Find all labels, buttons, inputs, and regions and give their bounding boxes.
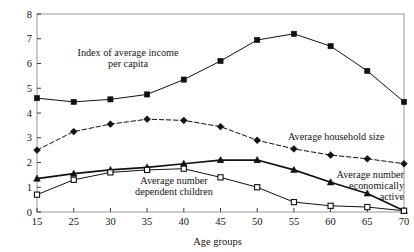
annotation-dependent-children-label: Average numberdependent children <box>135 175 213 197</box>
data-point-average-household-size <box>34 147 41 154</box>
x-axis-tick-label: 60 <box>325 216 336 227</box>
series-line-index-of-average-income-per-capita <box>37 34 404 102</box>
y-axis-tick-label: 5 <box>27 83 32 94</box>
annotation-line: per capita <box>108 58 148 69</box>
data-point-average-household-size <box>254 137 261 144</box>
x-axis-tick-label: 65 <box>362 216 373 227</box>
x-axis-tick-label: 35 <box>142 216 153 227</box>
annotation-line: dependent children <box>135 186 213 197</box>
annotation-household-label: Average household size <box>288 131 385 142</box>
annotation-line: Average number <box>337 169 405 180</box>
data-point-average-household-size <box>70 128 77 135</box>
data-point-index-of-average-income-per-capita <box>108 97 113 102</box>
x-axis-tick-label: 25 <box>68 216 79 227</box>
y-axis-tick-label: 7 <box>27 33 32 44</box>
data-point-average-number-dependent-children <box>71 177 76 182</box>
annotation-line: Average number <box>140 175 208 186</box>
y-axis-tick-label: 3 <box>27 132 32 143</box>
x-axis-tick-label: 40 <box>179 216 190 227</box>
x-axis-tick-label: 45 <box>215 216 226 227</box>
x-axis-tick-label: 70 <box>399 216 410 227</box>
x-axis-tick-label: 50 <box>252 216 263 227</box>
y-axis-tick-label: 1 <box>27 182 32 193</box>
data-point-average-household-size <box>327 152 334 159</box>
y-axis-tick-label: 8 <box>27 9 32 20</box>
y-axis-tick-label: 2 <box>27 157 32 168</box>
chart-figure: 0123456781525303540455055606570Age group… <box>0 0 414 252</box>
data-point-average-number-dependent-children <box>181 166 186 171</box>
data-point-index-of-average-income-per-capita <box>71 99 76 104</box>
data-point-index-of-average-income-per-capita <box>328 44 333 49</box>
x-axis-title: Age groups <box>193 236 242 247</box>
data-point-average-number-dependent-children <box>401 208 406 213</box>
x-axis-tick-label: 15 <box>32 216 43 227</box>
data-point-average-number-dependent-children <box>255 185 260 190</box>
data-point-index-of-average-income-per-capita <box>365 68 370 73</box>
data-point-average-household-size <box>180 117 187 124</box>
line-chart: 0123456781525303540455055606570Age group… <box>0 0 414 252</box>
data-point-index-of-average-income-per-capita <box>255 37 260 42</box>
y-axis-tick-label: 6 <box>27 58 32 69</box>
y-axis-tick-label: 4 <box>27 108 33 119</box>
data-point-index-of-average-income-per-capita <box>401 99 406 104</box>
data-point-average-number-dependent-children <box>328 203 333 208</box>
data-point-average-number-dependent-children <box>34 192 39 197</box>
x-axis-tick-label: 30 <box>105 216 116 227</box>
data-point-average-number-dependent-children <box>291 200 296 205</box>
annotation-line: economically <box>349 180 405 191</box>
annotation-line: Average household size <box>288 131 385 142</box>
annotation-income-label: Index of average incomeper capita <box>78 47 179 69</box>
data-point-average-household-size <box>364 155 371 162</box>
data-point-average-household-size <box>144 116 151 123</box>
data-point-average-household-size <box>107 121 114 128</box>
data-point-average-household-size <box>217 123 224 130</box>
data-point-average-number-dependent-children <box>145 167 150 172</box>
annotation-economically-active-label: Average numbereconomicallyactive <box>337 169 405 202</box>
data-point-index-of-average-income-per-capita <box>145 92 150 97</box>
data-point-average-number-dependent-children <box>365 204 370 209</box>
x-axis-tick-label: 55 <box>289 216 300 227</box>
data-point-average-household-size <box>401 160 408 167</box>
annotation-line: Index of average income <box>78 47 179 58</box>
data-point-index-of-average-income-per-capita <box>34 96 39 101</box>
annotation-line: active <box>380 191 405 202</box>
data-point-index-of-average-income-per-capita <box>291 31 296 36</box>
data-point-average-number-dependent-children <box>108 170 113 175</box>
data-point-average-number-dependent-children <box>218 175 223 180</box>
data-point-index-of-average-income-per-capita <box>181 77 186 82</box>
data-point-index-of-average-income-per-capita <box>218 58 223 63</box>
data-point-average-household-size <box>291 145 298 152</box>
